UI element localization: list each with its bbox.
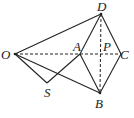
segment-OD	[15, 14, 101, 54]
geometry-diagram: O D A P C S B	[0, 0, 134, 118]
label-P: P	[102, 39, 111, 54]
label-O: O	[1, 47, 11, 62]
label-S: S	[44, 85, 51, 100]
label-D: D	[96, 0, 107, 14]
label-B: B	[95, 96, 103, 111]
segment-AD	[80, 14, 101, 54]
label-C: C	[120, 47, 129, 62]
point-O	[14, 53, 17, 56]
label-A: A	[72, 39, 81, 54]
segment-SA	[47, 54, 80, 83]
segment-AB	[80, 54, 100, 93]
segment-CB	[100, 54, 121, 93]
point-B	[99, 92, 102, 95]
point-labels: O D A P C S B	[1, 0, 129, 111]
segment-OS	[15, 54, 47, 83]
